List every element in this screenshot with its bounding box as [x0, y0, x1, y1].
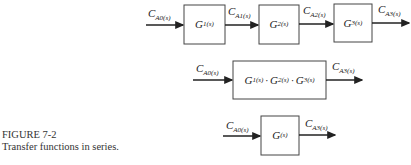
block-label-g-overall: G(s) [261, 116, 299, 155]
figure-caption: FIGURE 7-2 Transfer functions in series. [2, 129, 119, 153]
signal-label-ca3: CA3(s) [378, 4, 401, 18]
signal-label-ca0: CA0(s) [148, 8, 171, 22]
signal-label-ca3-combined: CA3(s) [332, 61, 355, 75]
signal-label-ca1: CA1(s) [228, 6, 251, 20]
signal-label-ca0-overall: CA0(s) [226, 120, 249, 134]
block-label-g3: G3(s) [334, 4, 372, 42]
block-label-g-product: G1(s) · G2(s) · G3(s) [233, 61, 326, 99]
block-label-g1: G1(s) [184, 5, 225, 44]
signal-label-ca2: CA2(s) [303, 5, 326, 19]
block-label-g2: G2(s) [259, 5, 299, 44]
signal-label-ca3-overall: CA3(s) [305, 118, 328, 132]
signal-label-ca0-combined: CA0(s) [196, 63, 219, 77]
figure-description: Transfer functions in series. [2, 141, 119, 153]
figure-number: FIGURE 7-2 [2, 129, 119, 141]
